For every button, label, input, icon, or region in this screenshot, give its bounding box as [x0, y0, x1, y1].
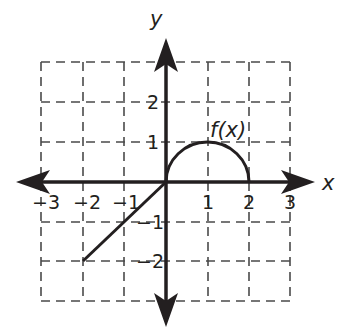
svg-text:1: 1 — [202, 191, 214, 213]
svg-text:2: 2 — [243, 191, 255, 213]
svg-text:2: 2 — [147, 91, 159, 113]
x-axis-label: x — [321, 171, 335, 195]
svg-text:1: 1 — [147, 131, 159, 153]
svg-text:−3: −3 — [32, 191, 60, 213]
y-axis-label: y — [149, 7, 163, 31]
svg-text:−2: −2 — [73, 191, 101, 213]
svg-text:−2: −2 — [136, 250, 164, 272]
function-label: f(x) — [210, 118, 246, 142]
svg-text:3: 3 — [284, 191, 296, 213]
svg-text:−1: −1 — [136, 211, 164, 233]
function-graph: y x f(x) −3 −2 −1 1 2 3 2 1 −1 −2 — [0, 0, 343, 334]
svg-text:−1: −1 — [112, 191, 140, 213]
x-tick-labels: −3 −2 −1 1 2 3 — [32, 191, 296, 213]
